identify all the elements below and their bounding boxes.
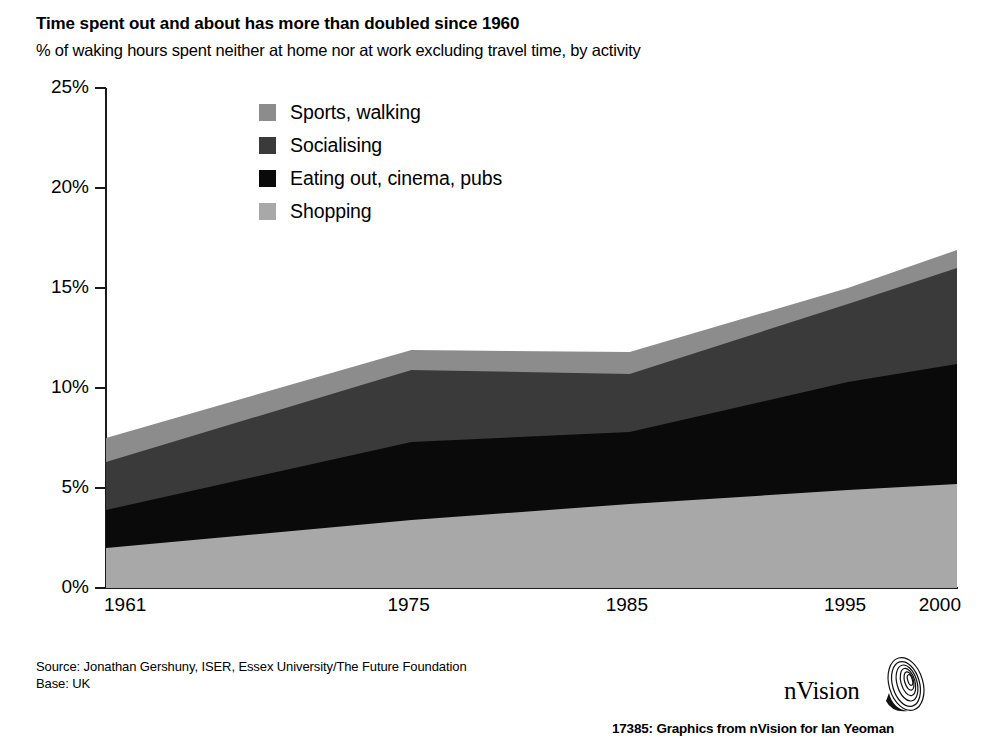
legend-label: Socialising: [290, 134, 382, 157]
legend-item: Socialising: [259, 129, 502, 162]
legend-item: Eating out, cinema, pubs: [259, 162, 502, 195]
legend-swatch-icon: [259, 104, 276, 121]
nvision-wordmark: nVision: [784, 677, 860, 705]
chart-legend: Sports, walkingSocialisingEating out, ci…: [259, 96, 502, 228]
legend-swatch-icon: [259, 203, 276, 220]
page-title: Time spent out and about has more than d…: [36, 14, 519, 34]
page-subtitle: % of waking hours spent neither at home …: [36, 41, 641, 60]
y-axis-tick-label: 0%: [5, 576, 89, 598]
x-axis-tick-label: 1961: [104, 594, 146, 616]
x-axis-tick-label: 2000: [919, 594, 961, 616]
legend-label: Eating out, cinema, pubs: [290, 167, 502, 190]
x-axis-tick-label: 1995: [824, 594, 866, 616]
legend-label: Shopping: [290, 200, 372, 223]
y-axis-tick-label: 25%: [5, 76, 89, 98]
x-axis-tick-label: 1985: [606, 594, 648, 616]
credit-line: 17385: Graphics from nVision for Ian Yeo…: [612, 721, 894, 736]
chart-page: Time spent out and about has more than d…: [0, 0, 1002, 754]
source-note: Source: Jonathan Gershuny, ISER, Essex U…: [36, 659, 467, 674]
stacked-area-chart: [106, 88, 957, 588]
y-axis-tick-label: 10%: [5, 376, 89, 398]
x-axis-tick-label: 1975: [387, 594, 429, 616]
y-axis-tick-label: 15%: [5, 276, 89, 298]
legend-item: Shopping: [259, 195, 502, 228]
y-axis-tick-label: 20%: [5, 176, 89, 198]
y-axis-tick-label: 5%: [5, 476, 89, 498]
base-note: Base: UK: [36, 676, 90, 691]
legend-swatch-icon: [259, 137, 276, 154]
plot-area: [106, 88, 957, 588]
nvision-spiral-icon: [878, 655, 934, 713]
legend-swatch-icon: [259, 170, 276, 187]
legend-label: Sports, walking: [290, 101, 421, 124]
legend-item: Sports, walking: [259, 96, 502, 129]
